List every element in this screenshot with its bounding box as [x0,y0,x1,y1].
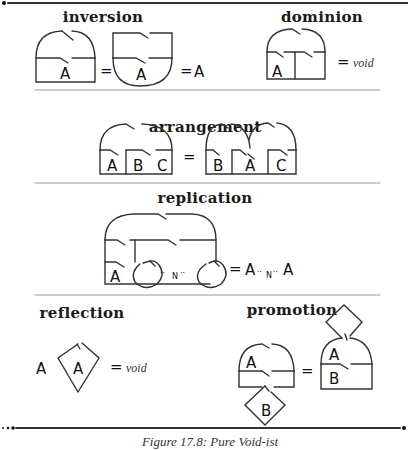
label-a: A [245,261,256,279]
label-n: N [172,272,178,281]
label-b: B [329,370,339,388]
label-a: A [194,63,205,81]
equals-sign: = [301,362,314,380]
dots: ·· [160,269,165,278]
label-a: A [245,157,256,175]
equals-sign: = [100,62,113,80]
void-label: void [126,361,148,375]
dots: ·· [180,269,185,278]
label-a: A [107,157,118,175]
equals-sign: = [110,358,123,376]
label-a: A [73,360,84,378]
dots: ·· [257,268,262,277]
rule-dot [7,427,10,430]
label-a: A [246,354,257,372]
label-b: B [261,402,271,420]
dots: ·· [273,268,278,277]
equals-sign: = [180,62,193,80]
rule-dot [2,1,6,5]
rule-dot [402,426,406,430]
label-c: C [276,157,286,175]
label-b: B [213,157,223,175]
label-c: C [157,157,167,175]
void-label: void [353,56,375,70]
equals-sign: = [229,260,242,278]
label-b: B [133,157,143,175]
figure-caption: Figure 17.8: Pure Void-ist [142,434,278,450]
label-a: A [110,268,121,286]
label-a: A [272,63,283,81]
equals-sign: = [183,148,196,166]
label-a: A [36,360,47,378]
label-a: A [329,346,340,364]
label-a: A [283,261,294,279]
label-a: A [136,66,147,84]
replication-form [105,214,226,288]
rule-dot [2,427,4,429]
label-n: N [266,271,272,280]
equals-sign: = [337,53,350,71]
rule-dot [11,426,15,430]
label-a: A [60,65,71,83]
